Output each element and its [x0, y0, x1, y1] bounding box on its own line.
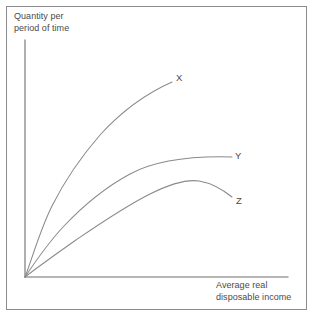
curve-x	[25, 82, 172, 277]
curve-label-x: X	[176, 73, 182, 83]
x-axis-label: Average real disposable income	[216, 280, 291, 303]
y-axis-label: Quantity per period of time	[14, 11, 69, 34]
curve-y	[25, 157, 232, 277]
curve-z	[25, 181, 232, 277]
curve-label-y: Y	[235, 151, 241, 161]
figure-container: Quantity per period of time Average real…	[0, 0, 314, 318]
curve-label-z: Z	[236, 196, 242, 206]
chart-plot-area	[0, 0, 314, 318]
